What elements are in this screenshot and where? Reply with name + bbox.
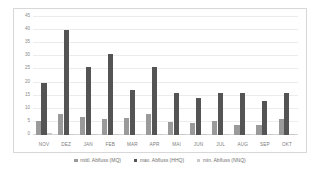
- x-axis-tick-label: JUN: [194, 143, 203, 148]
- y-axis-tick-label: 5: [27, 119, 30, 124]
- legend-label: min. Abfluss (NNQ): [203, 158, 246, 163]
- bar-mq-aug: [234, 125, 239, 135]
- bar-nnq-feb: [114, 134, 119, 135]
- y-axis-tick-label: 10: [25, 105, 30, 110]
- bar-mq-sep: [256, 125, 261, 135]
- bar-group: SEP: [254, 17, 276, 135]
- bar-hhq-mai: [174, 93, 179, 135]
- y-axis-tick-label: 35: [25, 40, 30, 45]
- x-axis-tick-label: OKT: [282, 143, 292, 148]
- legend-swatch-nnq: [197, 159, 200, 162]
- bar-hhq-nov: [41, 83, 46, 135]
- bar-hhq-aug: [240, 93, 245, 135]
- x-axis-tick-label: MAR: [127, 143, 138, 148]
- bar-hhq-dez: [64, 30, 69, 135]
- chart-card: 454035302520151050 NOVDEZJANFEBMARAPRMAI…: [13, 8, 307, 153]
- bar-mq-nov: [36, 121, 41, 135]
- x-axis-tick-label: JAN: [84, 143, 93, 148]
- plot-area: 454035302520151050 NOVDEZJANFEBMARAPRMAI…: [33, 17, 298, 135]
- bar-nnq-mar: [136, 134, 141, 135]
- bar-hhq-feb: [108, 54, 113, 135]
- bar-nnq-jul: [224, 134, 229, 135]
- x-axis-tick-label: DEZ: [61, 143, 71, 148]
- bar-hhq-mar: [130, 90, 135, 135]
- y-axis-tick-label: 25: [25, 66, 30, 71]
- bar-nnq-dez: [69, 134, 74, 135]
- y-axis-tick-label: 15: [25, 92, 30, 97]
- x-axis-tick-label: AUG: [238, 143, 248, 148]
- bar-nnq-okt: [290, 134, 295, 135]
- bar-group: JUN: [188, 17, 210, 135]
- bar-mq-jan: [80, 117, 85, 135]
- y-axis-tick-label: 45: [25, 14, 30, 19]
- bar-group: MAR: [121, 17, 143, 135]
- bar-group: JUL: [210, 17, 232, 135]
- bar-mq-mar: [124, 118, 129, 135]
- bar-group: JAN: [77, 17, 99, 135]
- legend-swatch-hhq: [134, 159, 137, 162]
- chart-legend: mittl. Abfluss (MQ)max. Abfluss (HHQ)min…: [13, 158, 307, 163]
- bar-nnq-apr: [158, 134, 163, 135]
- x-axis-tick-label: FEB: [106, 143, 115, 148]
- bar-hhq-sep: [262, 101, 267, 135]
- y-axis-tick-label: 20: [25, 79, 30, 84]
- x-axis-tick-label: MAI: [172, 143, 181, 148]
- bar-group: FEB: [99, 17, 121, 135]
- bar-hhq-jan: [86, 67, 91, 135]
- bar-nnq-sep: [268, 134, 273, 135]
- bar-mq-jul: [212, 121, 217, 135]
- bar-mq-okt: [279, 119, 284, 135]
- bar-nnq-nov: [47, 133, 52, 135]
- legend-item[interactable]: max. Abfluss (HHQ): [134, 158, 184, 163]
- bar-group: NOV: [33, 17, 55, 135]
- bar-mq-apr: [146, 114, 151, 135]
- x-axis-tick-label: JUL: [216, 143, 225, 148]
- x-axis-tick-label: APR: [149, 143, 159, 148]
- bar-mq-feb: [102, 119, 107, 135]
- bar-nnq-jan: [91, 134, 96, 135]
- bar-hhq-okt: [284, 93, 289, 135]
- legend-label: mittl. Abfluss (MQ): [80, 158, 121, 163]
- bar-hhq-apr: [152, 67, 157, 135]
- bar-mq-mai: [168, 122, 173, 135]
- bar-nnq-jun: [202, 134, 207, 135]
- bar-hhq-jun: [196, 98, 201, 135]
- x-axis-tick-label: NOV: [39, 143, 49, 148]
- y-axis-tick-label: 40: [25, 27, 30, 32]
- legend-item[interactable]: mittl. Abfluss (MQ): [74, 158, 121, 163]
- bar-group: DEZ: [55, 17, 77, 135]
- legend-label: max. Abfluss (HHQ): [140, 158, 184, 163]
- bar-group: AUG: [232, 17, 254, 135]
- y-axis-tick-label: 30: [25, 53, 30, 58]
- legend-item[interactable]: min. Abfluss (NNQ): [197, 158, 246, 163]
- bar-nnq-mai: [180, 134, 185, 135]
- bar-nnq-aug: [246, 134, 251, 135]
- bar-group: MAI: [165, 17, 187, 135]
- bar-mq-jun: [190, 123, 195, 135]
- legend-swatch-mq: [74, 159, 77, 162]
- bar-groups: NOVDEZJANFEBMARAPRMAIJUNJULAUGSEPOKT: [33, 17, 298, 135]
- bar-group: OKT: [276, 17, 298, 135]
- bar-hhq-jul: [218, 93, 223, 135]
- x-axis-tick-label: SEP: [260, 143, 270, 148]
- bar-mq-dez: [58, 114, 63, 135]
- bar-group: APR: [143, 17, 165, 135]
- y-axis-tick-label: 0: [27, 132, 30, 137]
